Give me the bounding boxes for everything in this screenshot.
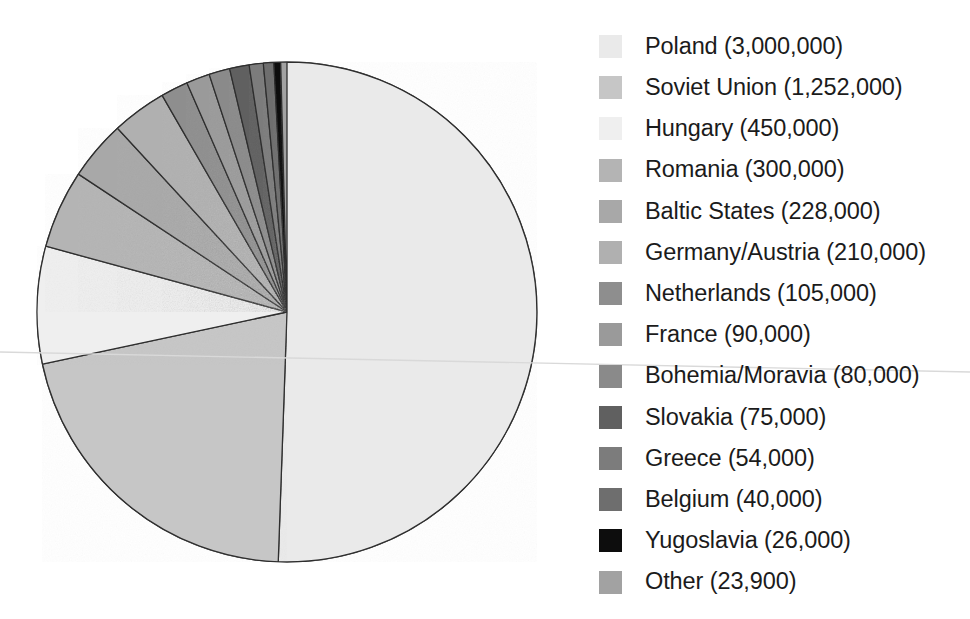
legend-item-label: Baltic States (228,000) bbox=[645, 200, 880, 224]
legend-swatch-icon bbox=[599, 406, 622, 429]
legend-item-netherlands[interactable]: Netherlands (105,000) bbox=[599, 273, 965, 314]
legend-item-label: Soviet Union (1,252,000) bbox=[645, 76, 903, 100]
pie-slice-group bbox=[37, 62, 537, 562]
legend-item-baltic-states[interactable]: Baltic States (228,000) bbox=[599, 191, 965, 232]
legend-swatch-icon bbox=[599, 200, 622, 223]
legend-item-label: Romania (300,000) bbox=[645, 158, 844, 182]
legend-swatch-icon bbox=[599, 323, 622, 346]
legend-item-germany-austria[interactable]: Germany/Austria (210,000) bbox=[599, 232, 965, 273]
legend-swatch-icon bbox=[599, 282, 622, 305]
legend-item-label: Bohemia/Moravia (80,000) bbox=[645, 364, 920, 388]
legend-item-label: Belgium (40,000) bbox=[645, 488, 822, 512]
legend-item-label: Yugoslavia (26,000) bbox=[645, 529, 851, 553]
legend-swatch-icon bbox=[599, 35, 622, 58]
legend-item-yugoslavia[interactable]: Yugoslavia (26,000) bbox=[599, 520, 965, 561]
legend-item-belgium[interactable]: Belgium (40,000) bbox=[599, 479, 965, 520]
chart-legend: Poland (3,000,000)Soviet Union (1,252,00… bbox=[599, 26, 965, 603]
legend-item-other[interactable]: Other (23,900) bbox=[599, 561, 965, 602]
legend-item-label: France (90,000) bbox=[645, 323, 811, 347]
legend-swatch-icon bbox=[599, 76, 622, 99]
legend-swatch-icon bbox=[599, 529, 622, 552]
legend-item-label: Greece (54,000) bbox=[645, 447, 815, 471]
legend-item-label: Other (23,900) bbox=[645, 570, 796, 594]
legend-item-label: Slovakia (75,000) bbox=[645, 406, 826, 430]
legend-item-poland[interactable]: Poland (3,000,000) bbox=[599, 26, 965, 67]
legend-item-label: Hungary (450,000) bbox=[645, 117, 839, 141]
pie-chart-svg bbox=[34, 59, 540, 565]
pie-chart bbox=[34, 59, 540, 565]
legend-swatch-icon bbox=[599, 117, 622, 140]
legend-swatch-icon bbox=[599, 241, 622, 264]
legend-swatch-icon bbox=[599, 447, 622, 470]
legend-item-soviet-union[interactable]: Soviet Union (1,252,000) bbox=[599, 67, 965, 108]
pie-slice-poland[interactable] bbox=[278, 62, 537, 562]
legend-swatch-icon bbox=[599, 488, 622, 511]
legend-item-label: Poland (3,000,000) bbox=[645, 35, 843, 59]
legend-item-label: Germany/Austria (210,000) bbox=[645, 241, 926, 265]
legend-item-hungary[interactable]: Hungary (450,000) bbox=[599, 108, 965, 149]
legend-item-romania[interactable]: Romania (300,000) bbox=[599, 150, 965, 191]
legend-item-france[interactable]: France (90,000) bbox=[599, 314, 965, 355]
legend-item-greece[interactable]: Greece (54,000) bbox=[599, 438, 965, 479]
legend-item-slovakia[interactable]: Slovakia (75,000) bbox=[599, 397, 965, 438]
pie-chart-page: Poland (3,000,000)Soviet Union (1,252,00… bbox=[0, 0, 970, 619]
legend-item-label: Netherlands (105,000) bbox=[645, 282, 877, 306]
legend-swatch-icon bbox=[599, 571, 622, 594]
legend-swatch-icon bbox=[599, 159, 622, 182]
legend-swatch-icon bbox=[599, 365, 622, 388]
legend-item-bohemia-moravia[interactable]: Bohemia/Moravia (80,000) bbox=[599, 356, 965, 397]
